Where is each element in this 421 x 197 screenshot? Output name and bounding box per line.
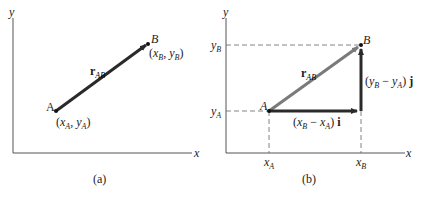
x-axis-label-a: x — [193, 146, 200, 160]
point-a-label-a: A — [46, 100, 55, 114]
point-a-label-b: A — [259, 99, 268, 113]
tick-label-yb: yB — [210, 38, 221, 54]
point-b-coords: (xB, yB) — [149, 46, 183, 62]
point-a-coords: (xA, yA) — [56, 115, 90, 131]
position-vector-diagram: y x A B rAB (xA, yA) (xB, yB) (a) y x — [0, 0, 421, 197]
tick-label-xb: xB — [355, 155, 366, 171]
point-b-label-a: B — [151, 32, 159, 46]
vector-label-b: rAB — [301, 66, 316, 82]
panel-b: y x A B rAB yB yA xA xB (xB − xA) i (yB … — [210, 5, 413, 186]
point-b-label-b: B — [363, 33, 371, 47]
vertical-component-label: (yB − yA) j — [365, 74, 413, 90]
horizontal-component-label: (xB − xA) i — [293, 115, 341, 131]
y-axis-label-b: y — [222, 5, 229, 19]
tick-label-ya: yA — [210, 104, 221, 120]
y-axis-label-a: y — [8, 5, 15, 19]
point-a-dot-b — [267, 109, 271, 113]
caption-b: (b) — [302, 172, 316, 186]
tick-label-xa: xA — [263, 155, 274, 171]
caption-a: (a) — [93, 172, 106, 186]
x-axis-label-b: x — [405, 146, 412, 160]
panel-a: y x A B rAB (xA, yA) (xB, yB) (a) — [8, 5, 200, 186]
vector-label-a: rAB — [90, 64, 105, 80]
